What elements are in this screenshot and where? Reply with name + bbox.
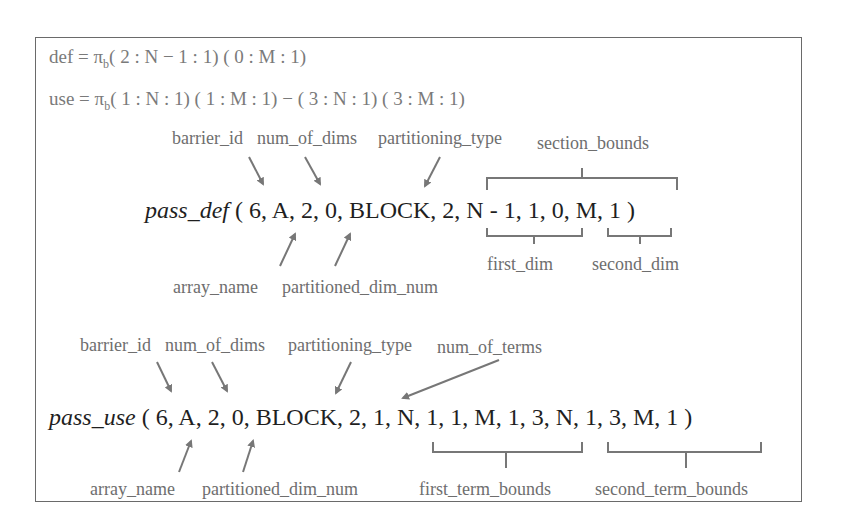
arrow-num-of-terms — [403, 360, 499, 398]
arrow-partitioned-dim-num-def — [335, 234, 350, 266]
brace-first-dim — [487, 228, 582, 236]
arrow-barrier-id-def — [249, 157, 263, 184]
arrow-num-of-dims-use — [212, 362, 227, 391]
annotation-arrows — [0, 0, 841, 529]
brace-second-term-bounds — [608, 442, 761, 452]
brace-section-bounds — [487, 178, 677, 190]
brace-first-term-bounds — [433, 442, 582, 452]
arrow-array-name-use — [179, 441, 191, 472]
arrow-num-of-dims-def — [305, 157, 320, 184]
arrow-array-name-def — [280, 234, 295, 266]
arrow-partitioning-type-use — [336, 362, 351, 393]
brace-second-dim — [608, 228, 671, 236]
arrow-partitioned-dim-num-use — [243, 441, 253, 472]
arrow-partitioning-type-def — [425, 157, 440, 186]
arrow-barrier-id-use — [157, 362, 171, 391]
